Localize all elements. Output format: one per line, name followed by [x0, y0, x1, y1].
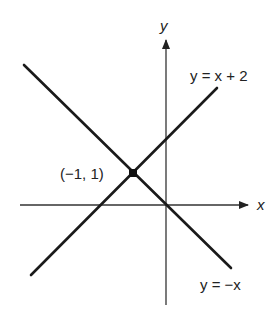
- y-axis-label: y: [159, 17, 169, 34]
- line-label-y-x-plus-2: y = x + 2: [190, 67, 248, 84]
- x-axis-label: x: [256, 196, 265, 213]
- line-label-y-neg-x: y = −x: [200, 276, 241, 293]
- intersection-label: (−1, 1): [60, 165, 104, 182]
- line-y-neg-x: [24, 65, 231, 268]
- coordinate-diagram: y x y = x + 2 y = −x (−1, 1): [0, 0, 280, 319]
- diagram-svg: y x y = x + 2 y = −x (−1, 1): [0, 0, 280, 319]
- intersection-point: [129, 169, 137, 177]
- line-y-x-plus-2: [31, 88, 217, 275]
